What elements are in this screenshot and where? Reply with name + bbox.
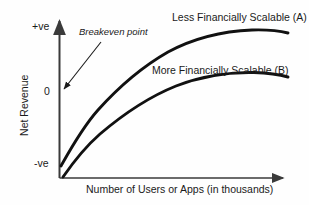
series-b-curve [63, 72, 288, 177]
y-axis-tick-zero: 0 [44, 86, 50, 97]
series-a-label: Less Financially Scalable (A) [172, 12, 307, 23]
y-axis-tick-positive: +ve [32, 21, 49, 32]
breakeven-annotation-label: Breakeven point [79, 27, 148, 37]
x-axis-title: Number of Users or Apps (in thousands) [86, 184, 273, 195]
breakeven-annotation-arrow [64, 42, 101, 89]
chart-figure: +ve 0 -ve Net Revenue Number of Users or… [0, 0, 309, 205]
series-b-label: More Financially Scalable (B) [152, 65, 289, 76]
y-axis-tick-negative: -ve [34, 158, 49, 169]
y-axis-title: Net Revenue [19, 65, 30, 145]
